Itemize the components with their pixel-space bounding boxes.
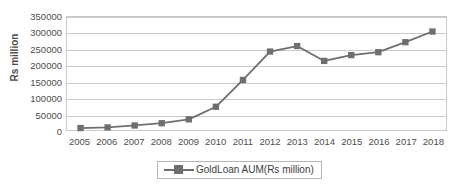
line-chart: Rs million 05000010000015000020000025000… <box>0 0 456 196</box>
legend-label: GoldLoan AUM(Rs million) <box>196 164 314 175</box>
y-axis-tick-label: 100000 <box>18 94 62 103</box>
data-point-marker <box>321 58 327 64</box>
data-point-marker <box>213 104 219 110</box>
legend-marker-icon <box>164 164 194 175</box>
series-canvas <box>67 17 446 130</box>
y-axis-tick-label: 350000 <box>18 12 62 21</box>
data-point-marker <box>348 52 354 58</box>
plot-area <box>66 16 447 131</box>
y-axis-tick-label: 150000 <box>18 77 62 86</box>
data-point-marker <box>402 39 408 45</box>
data-point-marker <box>294 43 300 49</box>
x-axis-tick-labels: 2005200620072008200920102011201220132014… <box>66 136 447 150</box>
y-axis-tick-labels: 0500001000001500002000002500003000003500… <box>18 11 62 133</box>
y-axis-tick-label: 0 <box>18 127 62 136</box>
data-point-marker <box>240 77 246 83</box>
data-point-marker <box>104 124 110 130</box>
data-point-marker <box>131 122 137 128</box>
series-line <box>81 32 433 129</box>
gridline <box>67 130 446 131</box>
y-axis-tick-label: 50000 <box>18 110 62 119</box>
data-point-marker <box>159 120 165 126</box>
data-point-marker <box>375 49 381 55</box>
data-point-marker <box>186 116 192 122</box>
y-axis-tick-label: 200000 <box>18 61 62 70</box>
data-point-marker <box>429 28 435 34</box>
y-axis-tick-label: 250000 <box>18 44 62 53</box>
data-point-marker <box>77 125 83 131</box>
chart-legend: GoldLoan AUM(Rs million) <box>157 161 322 179</box>
data-point-marker <box>267 48 273 54</box>
y-axis-tick-label: 300000 <box>18 28 62 37</box>
x-axis-tick-label: 2018 <box>413 136 453 147</box>
